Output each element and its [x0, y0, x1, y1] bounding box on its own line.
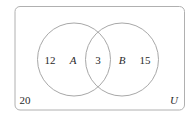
set-a-label: A [69, 54, 77, 66]
set-b-label: B [119, 54, 126, 66]
intersection-count: 3 [95, 54, 101, 66]
outside-count: 20 [20, 94, 32, 106]
b-only-count: 15 [140, 54, 152, 66]
venn-diagram: 12 A 3 B 15 20 U [0, 0, 193, 119]
universe-label: U [170, 94, 179, 106]
a-only-count: 12 [45, 54, 56, 66]
